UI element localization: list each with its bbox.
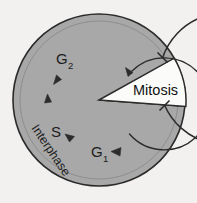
cell-cycle-diagram: G 2 S G 1 Mitosis Interphase xyxy=(0,0,197,203)
phase-label-s: S xyxy=(51,123,61,140)
mitosis-label: Mitosis xyxy=(133,82,178,98)
phase-g1-base: G xyxy=(91,143,103,160)
phase-g2-base: G xyxy=(56,50,68,67)
phase-g1-subscript: 1 xyxy=(103,153,108,164)
phase-g2-subscript: 2 xyxy=(68,60,73,71)
phase-s-base: S xyxy=(51,123,61,140)
cell-cycle-svg: G 2 S G 1 Mitosis Interphase xyxy=(0,0,197,203)
